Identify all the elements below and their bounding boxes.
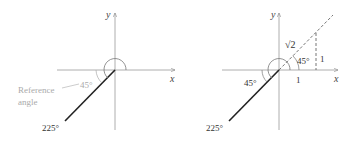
right-terminal-angle-label: 225° (206, 123, 224, 133)
left-terminal-angle-label: 225° (42, 123, 60, 133)
right-reference-angle-value: 45° (244, 78, 257, 88)
right-x-label: x (333, 73, 339, 84)
right-y-label: y (270, 9, 276, 20)
left-caption-leader (62, 84, 79, 88)
right-hypotenuse-label: √2 (285, 39, 296, 50)
right-height-label: 1 (320, 54, 325, 64)
left-reference-arc (96, 70, 102, 83)
left-caption-line1: Reference (18, 85, 54, 95)
left-caption-line2: angle (18, 97, 38, 107)
left-reference-angle-value: 45° (80, 80, 93, 90)
right-diagram: x y 45° 45° √2 1 1 225° (206, 9, 339, 133)
left-diagram: x y 45° Reference angle 225° (18, 9, 175, 133)
left-x-label: x (169, 73, 175, 84)
left-y-label: y (105, 9, 111, 20)
right-base-label: 1 (296, 75, 301, 85)
right-triangle-angle-label: 45° (297, 56, 310, 66)
right-reference-arc (262, 70, 267, 82)
